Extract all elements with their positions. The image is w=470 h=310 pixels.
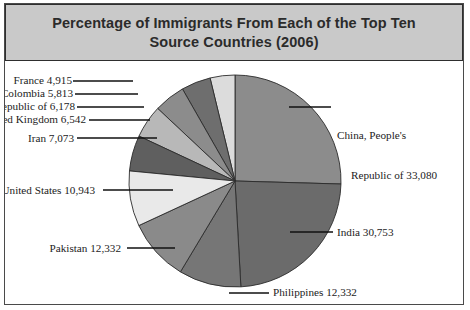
page-title: Percentage of Immigrants From Each of th… [6,14,462,52]
slice-label-philippines: Philippines 12,332 [273,286,357,299]
slice-label-india: India 30,753 [337,226,394,239]
chart-title-band: Percentage of Immigrants From Each of th… [5,4,463,61]
slice-label-united-states: United States 10,943 [5,184,95,197]
slice-label-colombia: Colombia 5,813 [5,87,73,100]
slice-label-korea: Korea, Republic of 6,178 [5,100,75,113]
chart-title-line-2: Countries (2006) [203,34,318,50]
pie-slice-china-people-s-republic-of[interactable] [235,75,341,184]
slice-label-iran: Iran 7,073 [5,132,74,145]
slice-label-pakistan: Pakistan 12,332 [5,242,121,255]
slice-label-france: France 4,915 [5,74,72,87]
slice-label-china-line-2: Republic of 33,080 [337,169,437,182]
pie-chart-figure: Percentage of Immigrants From Each of th… [0,0,470,310]
pie-slice-india[interactable] [235,181,341,287]
slice-label-united-kingdom: United Kingdom 6,542 [5,113,86,126]
slice-label-china: China, People's Republic of 33,080 [337,102,437,209]
plot-area: China, People's Republic of 33,080 India… [5,62,463,304]
slice-label-china-line-1: China, People's [337,129,437,142]
